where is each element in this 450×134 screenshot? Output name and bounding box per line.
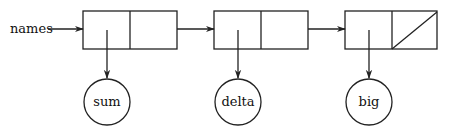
list-node-3: big (345, 11, 437, 125)
list-node-2: delta (214, 11, 345, 125)
linked-list-diagram: names sum delta big (0, 0, 450, 134)
node-value: big (359, 94, 380, 109)
head-label: names (10, 21, 53, 36)
node-value: sum (93, 94, 120, 109)
list-node-1: sum (83, 11, 214, 125)
node-box (345, 11, 437, 49)
node-value: delta (221, 94, 254, 109)
null-pointer-slash (392, 12, 437, 49)
